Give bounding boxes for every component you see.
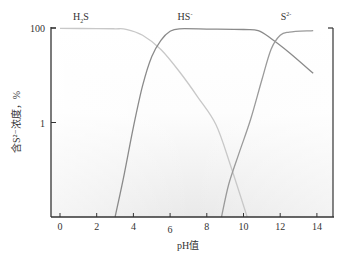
plot-background [51,28,333,217]
x-tick-label: 12 [275,221,285,232]
species-label-s2: S2- [281,11,292,22]
x-tick-label: 2 [94,221,99,232]
x-tick-label: 10 [239,221,249,232]
x-tick-label: 4 [131,221,136,232]
y-tick-label: 100 [30,23,45,34]
y-tick-label: 1 [40,118,45,129]
species-labels: H2SHS-S2- [73,11,291,24]
species-label-hs: HS- [178,11,193,22]
x-tick-label: 14 [312,221,322,232]
y-axis-title: 含S²⁻浓度，% [10,91,22,153]
chart: 02468101214 1001 H2SHS-S2- pH值 含S²⁻浓度，% [0,0,343,261]
x-tick-label: 0 [58,221,63,232]
x-axis-title: pH值 [177,239,199,251]
x-tick-label: 6 [168,224,173,235]
species-label-h2s: H2S [73,11,89,24]
x-tick-label: 8 [204,221,209,232]
